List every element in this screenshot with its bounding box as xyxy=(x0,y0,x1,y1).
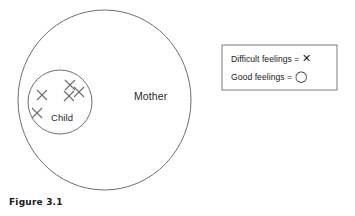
mother-label: Mother xyxy=(134,90,167,102)
figure-caption: Figure 3.1 xyxy=(9,197,63,207)
child-circle xyxy=(28,70,92,134)
x-mark xyxy=(65,80,75,90)
x-mark xyxy=(37,90,47,100)
legend: Difficult feelings = ✕ Good feelings = ◯ xyxy=(222,45,337,90)
diagram-canvas xyxy=(0,0,355,216)
figure-container: Mother Child Difficult feelings = ✕ Good… xyxy=(0,0,355,216)
legend-row-good-feelings: Good feelings = ◯ xyxy=(231,71,307,82)
child-label: Child xyxy=(51,112,73,123)
legend-label-good-feelings: Good feelings = xyxy=(231,72,292,82)
x-mark xyxy=(32,108,42,118)
x-mark xyxy=(74,87,84,97)
legend-row-difficult-feelings: Difficult feelings = ✕ xyxy=(231,53,312,64)
x-symbol: ✕ xyxy=(302,53,311,64)
legend-label-difficult-feelings: Difficult feelings = xyxy=(231,54,299,64)
x-mark xyxy=(64,91,74,101)
o-symbol: ◯ xyxy=(295,71,307,82)
